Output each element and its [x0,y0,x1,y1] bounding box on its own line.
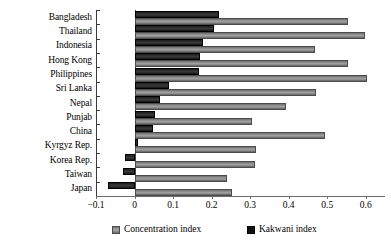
value-tick-label: 0.4 [269,200,309,211]
value-tick-label: 0.5 [307,200,347,211]
legend-swatch-conc-icon [112,226,120,234]
category-label-kyrgyz-rep: Kyrgyz Rep. [0,140,92,150]
category-tick [96,53,100,54]
category-label-punjab: Punjab [0,112,92,122]
value-tick [289,196,290,199]
category-label-bangladesh: Bangladesh [0,12,92,22]
value-tick [173,196,174,199]
category-axis-line [96,10,97,196]
legend-item-kak[interactable]: Kakwani index [247,224,317,235]
category-label-sri-lanka: Sri Lanka [0,83,92,93]
plot-area [96,10,385,196]
category-label-nepal: Nepal [0,98,92,108]
bar-concentration-hong-kong [135,60,349,67]
category-label-japan: Japan [0,183,92,193]
category-tick [96,182,100,183]
value-tick [327,196,328,199]
value-tick [212,196,213,199]
bar-concentration-kyrgyz-rep [135,146,257,153]
bar-kakwani-hong-kong [135,53,201,60]
category-tick [96,96,100,97]
category-tick [96,67,100,68]
bar-concentration-philippines [135,75,367,82]
bar-kakwani-china [135,125,153,132]
category-tick [96,110,100,111]
bar-kakwani-sri-lanka [135,82,169,89]
legend-item-conc[interactable]: Concentration index [112,224,201,235]
bar-concentration-china [135,132,326,139]
category-label-thailand: Thailand [0,26,92,36]
bar-kakwani-indonesia [135,39,203,46]
legend-label: Concentration index [124,224,201,235]
value-tick-label: 0.2 [192,200,232,211]
bar-concentration-taiwan [135,175,227,182]
category-label-indonesia: Indonesia [0,40,92,50]
value-tick [366,196,367,199]
bar-chart: BangladeshThailandIndonesiaHong KongPhil… [0,0,391,247]
bar-concentration-punjab [135,118,252,125]
category-label-china: China [0,126,92,136]
category-tick [96,10,100,11]
value-tick-label: 0.6 [346,200,386,211]
category-axis-labels: BangladeshThailandIndonesiaHong KongPhil… [0,10,92,196]
category-tick [96,139,100,140]
category-tick [96,24,100,25]
bar-concentration-indonesia [135,46,316,53]
category-tick [96,124,100,125]
category-label-philippines: Philippines [0,69,92,79]
category-label-hong-kong: Hong Kong [0,55,92,65]
bar-kakwani-bangladesh [135,11,219,18]
bar-concentration-sri-lanka [135,89,316,96]
bar-kakwani-japan [108,182,135,189]
category-label-korea-rep: Korea Rep. [0,155,92,165]
value-tick-label: 0 [115,200,155,211]
category-tick [96,167,100,168]
bar-kakwani-korea-rep [125,154,134,161]
bar-kakwani-philippines [135,68,200,75]
value-tick-label: −0.1 [76,200,116,211]
category-label-taiwan: Taiwan [0,169,92,179]
value-axis-line [96,196,385,197]
category-tick [96,82,100,83]
value-tick [135,196,136,199]
bar-concentration-korea-rep [135,161,256,168]
bar-concentration-thailand [135,32,365,39]
value-tick [250,196,251,199]
legend-label: Kakwani index [259,224,317,235]
category-tick [96,153,100,154]
value-tick [96,196,97,199]
value-tick-label: 0.1 [153,200,193,211]
bar-concentration-nepal [135,103,286,110]
bar-kakwani-taiwan [123,168,135,175]
category-tick [96,39,100,40]
bar-kakwani-kyrgyz-rep [135,139,139,146]
bar-concentration-bangladesh [135,18,349,25]
bar-kakwani-punjab [135,111,155,118]
legend-swatch-kak-icon [247,226,255,234]
bar-kakwani-thailand [135,25,214,32]
chart-legend: Concentration indexKakwani index [0,224,391,242]
bar-kakwani-nepal [135,96,160,103]
value-tick-label: 0.3 [230,200,270,211]
